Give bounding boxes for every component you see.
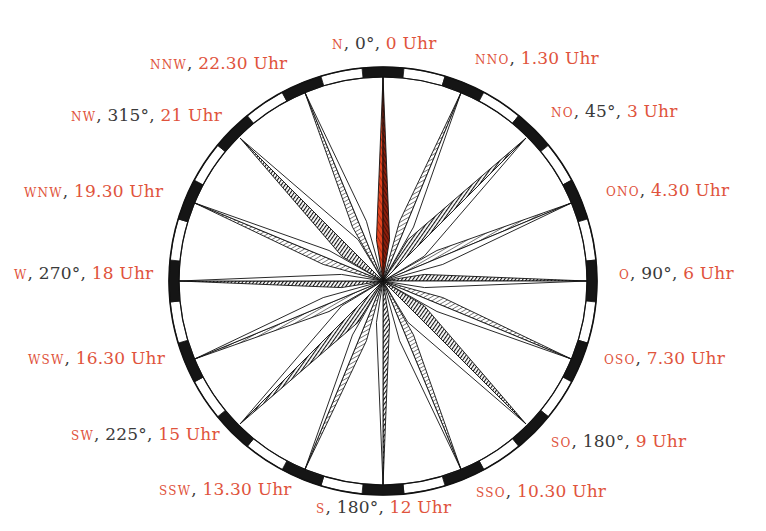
star-point-cardinal	[383, 274, 587, 287]
direction-abbr: SO	[551, 431, 571, 451]
direction-degrees: 180°	[337, 497, 379, 517]
direction-time: 1.30 Uhr	[521, 48, 599, 68]
direction-abbr: OSO	[604, 348, 636, 368]
direction-degrees: 270°	[39, 263, 81, 283]
direction-time: 21 Uhr	[160, 105, 222, 125]
ring-segment	[362, 484, 404, 495]
ring-segment	[586, 260, 597, 302]
direction-time: 18 Uhr	[92, 263, 154, 283]
direction-time: 10.30 Uhr	[517, 481, 606, 501]
direction-time: 9 Uhr	[636, 431, 687, 451]
direction-degrees: 180°	[583, 431, 625, 451]
direction-abbr: N	[332, 33, 344, 53]
direction-degrees: 315°	[107, 105, 149, 125]
direction-degrees: 225°	[105, 424, 147, 444]
star-point-intercardinal	[383, 281, 526, 424]
star-point-north	[376, 77, 389, 281]
star-point-intercardinal	[383, 138, 526, 281]
label-ono: ONO, 4.30 Uhr	[606, 180, 729, 200]
star-point-intercardinal	[240, 281, 383, 424]
ring-segment	[541, 145, 572, 185]
ring-segment	[169, 260, 180, 302]
label-oso: OSO, 7.30 Uhr	[604, 348, 725, 368]
direction-abbr: W	[14, 263, 28, 283]
label-nw: NW, 315°, 21 Uhr	[71, 105, 222, 125]
ring-segment	[247, 439, 287, 470]
label-w: W, 270°, 18 Uhr	[14, 263, 153, 283]
direction-time: 22.30 Uhr	[198, 53, 287, 73]
direction-degrees: 45°	[585, 101, 616, 121]
direction-time: 15 Uhr	[158, 424, 220, 444]
ring-segment	[194, 145, 225, 185]
star-point-intercardinal	[240, 138, 383, 281]
ring-segment	[247, 92, 287, 123]
label-n: N, 0°, 0 Uhr	[332, 33, 436, 53]
direction-time: 13.30 Uhr	[202, 479, 291, 499]
star-point-cardinal	[179, 274, 383, 287]
label-ssw: SSW, 13.30 Uhr	[159, 479, 292, 499]
label-sso: SSO, 10.30 Uhr	[476, 481, 606, 501]
ring-segment	[479, 92, 519, 123]
ring-segment	[479, 439, 519, 470]
label-s: S, 180°, 12 Uhr	[316, 497, 451, 517]
direction-abbr: SSO	[476, 481, 506, 501]
label-o: O, 90°, 6 Uhr	[619, 263, 734, 283]
ring-segment	[362, 67, 404, 78]
ring-segment	[194, 377, 225, 417]
direction-degrees: 0°	[355, 33, 375, 53]
direction-time: 6 Uhr	[683, 263, 734, 283]
label-wsw: WSW, 16.30 Uhr	[28, 348, 165, 368]
label-so: SO, 180°, 9 Uhr	[551, 431, 686, 451]
compass-star	[179, 77, 587, 485]
direction-abbr: NNO	[475, 48, 509, 68]
star-point-cardinal	[376, 281, 389, 485]
label-wnw: WNW, 19.30 Uhr	[24, 181, 163, 201]
direction-time: 7.30 Uhr	[647, 348, 725, 368]
direction-time: 16.30 Uhr	[76, 348, 165, 368]
label-sw: SW, 225°, 15 Uhr	[71, 424, 220, 444]
direction-abbr: S	[316, 497, 325, 517]
ring-segment	[541, 377, 572, 417]
direction-time: 19.30 Uhr	[74, 181, 163, 201]
direction-abbr: NO	[551, 101, 574, 121]
direction-abbr: SSW	[159, 479, 191, 499]
label-no: NO, 45°, 3 Uhr	[551, 101, 678, 121]
label-nno: NNO, 1.30 Uhr	[475, 48, 599, 68]
label-nnw: NNW, 22.30 Uhr	[150, 53, 287, 73]
direction-time: 0 Uhr	[386, 33, 437, 53]
direction-abbr: NW	[71, 105, 96, 125]
direction-time: 4.30 Uhr	[651, 180, 729, 200]
direction-time: 3 Uhr	[627, 101, 678, 121]
direction-degrees: 90°	[641, 263, 672, 283]
direction-abbr: ONO	[606, 180, 640, 200]
direction-abbr: O	[619, 263, 630, 283]
direction-time: 12 Uhr	[390, 497, 452, 517]
direction-abbr: WSW	[28, 348, 65, 368]
direction-abbr: WNW	[24, 181, 63, 201]
direction-abbr: SW	[71, 424, 94, 444]
direction-abbr: NNW	[150, 53, 187, 73]
